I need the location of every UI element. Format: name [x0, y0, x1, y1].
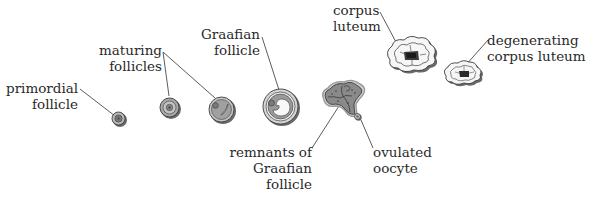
primordial-follicle-shape [112, 112, 127, 127]
maturing-follicle-1-shape [160, 98, 181, 119]
label-line: follicle [6, 96, 78, 112]
label-line: Graafian [196, 26, 260, 42]
follicle-diagram: primordial follicle maturing follicles G… [0, 0, 599, 205]
label-line: primordial [6, 80, 78, 96]
leader-maturing-1 [163, 52, 169, 96]
label-line: maturing [90, 42, 162, 58]
leader-primordial [80, 89, 115, 116]
label-line: Graafian [216, 160, 312, 176]
label-line: corpus luteum [487, 48, 586, 64]
label-line: follicle [216, 176, 312, 192]
maturing-follicle-2-shape [209, 97, 236, 124]
label-line: oocyte [373, 160, 432, 176]
label-line: corpus [333, 2, 381, 18]
label-graafian-follicle: Graafian follicle [196, 26, 260, 58]
label-line: remnants of [216, 144, 312, 160]
leader-corpus-luteum [380, 12, 397, 44]
degenerating-corpus-luteum-shape [444, 61, 483, 87]
corpus-luteum-shape [387, 36, 437, 73]
leader-lines [80, 12, 488, 148]
label-primordial-follicle: primordial follicle [6, 80, 78, 112]
leader-maturing-2 [163, 52, 215, 98]
label-line: follicle [196, 42, 260, 58]
graafian-follicle-shape [263, 89, 300, 126]
leader-ovulated [361, 120, 373, 148]
label-line: luteum [333, 18, 381, 34]
label-maturing-follicles: maturing follicles [90, 42, 162, 74]
label-line: follicles [90, 58, 162, 74]
label-line: degenerating [487, 32, 586, 48]
label-line: ovulated [373, 144, 432, 160]
label-remnants-graafian-follicle: remnants of Graafian follicle [216, 144, 312, 192]
leader-remnants [312, 106, 339, 148]
label-degenerating-corpus-luteum: degenerating corpus luteum [487, 32, 586, 64]
ovulated-oocyte-shape [355, 114, 362, 121]
label-ovulated-oocyte: ovulated oocyte [373, 144, 432, 176]
label-corpus-luteum: corpus luteum [333, 2, 381, 34]
graafian-remnants-shape [323, 80, 365, 116]
leader-graafian [262, 37, 279, 90]
